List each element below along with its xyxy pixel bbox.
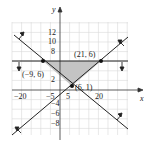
point-label-b: (21, 6)	[74, 50, 96, 59]
vertex-c	[70, 84, 74, 88]
xtick-p5: 5	[66, 92, 70, 101]
graph: −20 −5 5 20 12 10 8 2 −4 −6 −8 y x (−9, …	[0, 0, 150, 145]
vertex-a	[41, 59, 45, 63]
ytick-p10: 10	[48, 37, 56, 46]
ytick-p2: 2	[51, 75, 55, 84]
vertex-b	[99, 59, 103, 63]
xtick-m20: −20	[14, 92, 27, 101]
y-axis-label: y	[51, 5, 56, 14]
xtick-p20: 20	[95, 92, 103, 101]
ytick-m6: −6	[51, 109, 60, 118]
ytick-p12: 12	[48, 28, 56, 37]
x-axis-label: x	[139, 94, 144, 103]
point-label-a: (−9, 6)	[22, 70, 44, 79]
ytick-m8: −8	[51, 119, 60, 128]
boundary-lines	[12, 35, 128, 135]
ytick-m4: −4	[51, 99, 60, 108]
point-label-c: (6, 1)	[75, 83, 93, 92]
ytick-p8: 8	[51, 47, 55, 56]
